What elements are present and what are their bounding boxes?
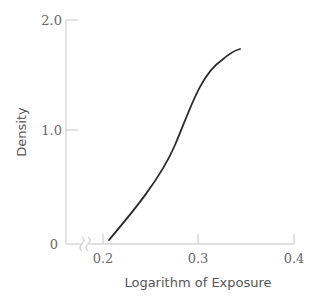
chart: 2.0 1.0 0 0.2 0.3 0.4 Logarithm of Expos… [0, 0, 314, 297]
y-tick-label-0: 0 [50, 237, 58, 252]
x-axis-label: Logarithm of Exposure [124, 275, 271, 290]
y-tick-label-1: 1.0 [41, 123, 62, 138]
y-axis-label: Density [14, 107, 29, 157]
x-tick-label-2: 0.4 [284, 251, 305, 266]
y-tick-label-2: 2.0 [41, 13, 62, 28]
x-tick-label-1: 0.3 [188, 251, 209, 266]
x-tick-label-0: 0.2 [93, 251, 114, 266]
density-curve [109, 49, 240, 240]
